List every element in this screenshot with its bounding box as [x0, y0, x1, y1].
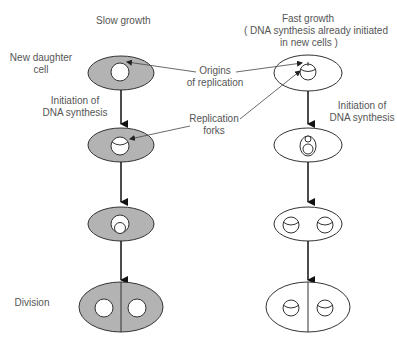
fast-growth-subtitle-line2: in new cells )	[264, 37, 354, 49]
slow-stage-4-division-cell	[79, 282, 163, 332]
fast-stage-1-new-cell	[274, 55, 342, 91]
label-initiation-slow-line1: Initiation of	[40, 95, 110, 107]
slow-stage-2-initiation-cell	[88, 128, 154, 162]
fast-stage-4-division-cell	[266, 282, 350, 332]
label-new-daughter-line1: New daughter	[8, 52, 74, 64]
label-initiation-slow-line2: DNA synthesis	[40, 107, 110, 119]
slow-stage-3-replicating-cell	[88, 207, 154, 241]
annotation-forks-line2: forks	[184, 125, 244, 137]
slow-stage-1-new-daughter-cell	[88, 56, 154, 90]
annotation-origins-line1: Origins	[190, 65, 240, 77]
label-initiation-fast-line2: DNA synthesis	[327, 112, 397, 124]
fast-stage-3-replicating-cell	[274, 207, 342, 241]
figure-caption-clipped	[8, 340, 388, 348]
label-new-daughter-line2: cell	[8, 64, 74, 76]
fast-stage-2-initiation-cell	[274, 128, 342, 162]
annotation-forks-line1: Replication	[184, 113, 244, 125]
fast-growth-subtitle-line1: ( DNA synthesis already initiated	[244, 25, 374, 37]
fast-growth-title: Fast growth	[258, 13, 358, 25]
label-division: Division	[12, 297, 52, 309]
annotation-origins-line2: of replication	[180, 77, 250, 89]
label-initiation-fast-line1: Initiation of	[327, 100, 397, 112]
slow-growth-title: Slow growth	[96, 15, 146, 27]
